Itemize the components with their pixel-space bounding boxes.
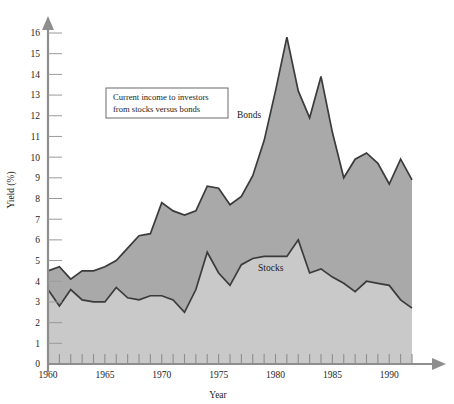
x-tick-label: 1990 [380,370,399,380]
x-tick-label: 1970 [152,370,171,380]
annotation-box: Current income to investors from stocks … [106,88,228,118]
annotation-line-2: from stocks versus bonds [113,104,201,114]
series-label-stocks: Stocks [258,263,284,273]
y-tick-label: 14 [31,70,41,80]
bonds-area-fill [48,37,412,312]
x-tick-label: 1980 [266,370,285,380]
y-tick-label: 11 [31,132,40,142]
y-tick-label: 2 [35,318,40,328]
series-label-bonds: Bonds [237,110,262,120]
y-tick-label: 13 [31,90,41,100]
chart-areas [48,37,412,364]
y-axis-title: Yield (%) [6,171,17,208]
x-tick-label: 1975 [209,370,228,380]
y-tick-label: 9 [35,173,40,183]
chart-container: 012345678910111213141516 196019651970197… [0,0,454,404]
annotation-line-1: Current income to investors [113,92,209,102]
area-chart: 012345678910111213141516 196019651970197… [0,0,454,404]
y-tick-label: 3 [35,297,40,307]
x-tick-label: 1965 [95,370,114,380]
y-tick-label: 4 [35,277,40,287]
y-tick-label: 7 [35,215,40,225]
y-tick-label: 0 [35,359,40,369]
y-tick-label: 12 [31,111,41,121]
x-tick-label: 1985 [323,370,342,380]
x-axis-title: Year [209,390,227,400]
x-axis-arrow-icon [432,358,446,370]
y-tick-label: 8 [35,194,40,204]
y-tick-label: 10 [31,153,41,163]
y-tick-label: 5 [35,256,40,266]
y-axis-arrow-icon [42,16,54,30]
y-tick-label: 1 [35,339,40,349]
x-tick-label: 1960 [39,370,58,380]
y-tick-label: 16 [31,28,41,38]
y-tick-label: 15 [31,49,41,59]
y-tick-label: 6 [35,235,40,245]
